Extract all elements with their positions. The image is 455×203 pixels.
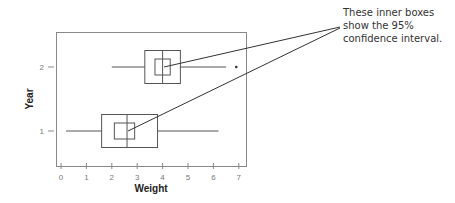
y-tick-label: 2 <box>40 63 45 72</box>
x-tick-label: 4 <box>160 173 165 182</box>
x-tick-label: 7 <box>237 173 242 182</box>
leader-line-year-1 <box>128 28 340 131</box>
annotation-line-2: show the 95% <box>343 19 453 32</box>
outlier-point <box>235 66 238 69</box>
y-axis-title: Year <box>24 88 35 109</box>
x-axis-title: Weight <box>134 183 168 194</box>
iqr-box <box>102 115 158 148</box>
ci-box <box>114 123 134 139</box>
annotation-line-3: confidence interval. <box>343 32 453 45</box>
x-tick-label: 0 <box>59 173 64 182</box>
y-axis-tick-labels: 12 <box>40 63 45 136</box>
x-tick-label: 3 <box>135 173 140 182</box>
annotation-callout: These inner boxes show the 95% confidenc… <box>343 6 453 45</box>
box-series <box>66 51 237 148</box>
y-axis <box>48 67 54 131</box>
plot-frame <box>57 33 247 167</box>
x-tick-label: 1 <box>84 173 89 182</box>
x-tick-label: 2 <box>110 173 115 182</box>
annotation-line-1: These inner boxes <box>343 6 453 19</box>
box-year-1 <box>66 115 218 148</box>
x-axis-tick-labels: 01234567 <box>59 173 242 182</box>
x-tick-label: 5 <box>186 173 191 182</box>
y-tick-label: 1 <box>40 127 45 136</box>
x-tick-label: 6 <box>211 173 216 182</box>
box-year-2 <box>112 51 238 84</box>
